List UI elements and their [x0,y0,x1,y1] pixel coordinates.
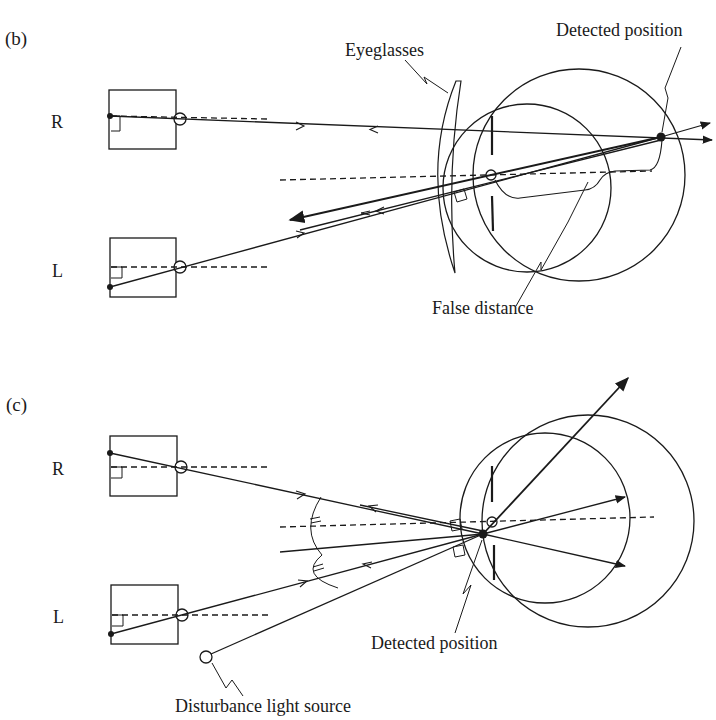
false-distance-label: False distance [432,299,533,317]
detected-position-dot-b [657,133,666,142]
camera-left-label-b: L [52,262,63,280]
eyeglasses-lens-b [438,81,461,273]
disturbance-light-source [200,651,212,663]
detected-position-dot-c [479,530,488,539]
detected-position-label-c: Detected position [371,634,497,652]
ray-right-c [110,453,483,534]
camera-left-label-c: L [53,608,64,626]
ray-left-c [111,534,483,634]
camera-left-b [107,238,268,297]
panel-b [107,47,712,306]
detected-position-label-b: Detected position [556,21,682,39]
eyeglasses-label: Eyeglasses [345,41,424,59]
camera-right-label-b: R [51,113,63,131]
ray-left-b [110,137,661,287]
figure-canvas [0,0,716,720]
camera-left-c [108,585,268,644]
camera-right-label-c: R [52,460,64,478]
ray-right-b [110,116,712,140]
panel-c-label: (c) [6,395,27,414]
panel-b-label: (b) [5,29,27,48]
disturbance-light-source-label: Disturbance light source [175,697,351,715]
camera-right-c [107,436,268,496]
